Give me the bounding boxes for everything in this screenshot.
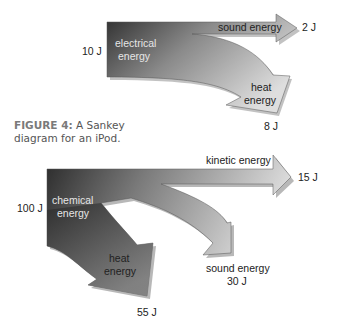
input-label: energy	[118, 50, 151, 62]
output-sound-value: 2 J	[302, 21, 316, 33]
sankey-diagrams: electrical energy 10 J sound energy 2 J …	[0, 0, 337, 325]
figure-caption: FIGURE 4: A Sankey diagram for an iPod.	[14, 119, 144, 145]
output-heat-label: heat	[109, 252, 130, 264]
output-heat-value: 8 J	[264, 120, 278, 132]
output-sound-value: 30 J	[227, 275, 247, 287]
input-value: 10 J	[82, 45, 102, 57]
output-heat-label: heat	[251, 81, 272, 93]
input-label: chemical	[52, 194, 93, 206]
output-sound-label: sound energy	[206, 262, 270, 274]
output-heat-label: energy	[104, 265, 137, 277]
output-sound-label: sound energy	[218, 21, 282, 33]
output-heat-label: energy	[244, 94, 277, 106]
sankey-car: chemical energy 100 J kinetic energy 15 …	[17, 154, 318, 318]
input-label: electrical	[115, 37, 156, 49]
figure-label: FIGURE 4:	[14, 119, 73, 131]
output-kinetic-value: 15 J	[298, 171, 318, 183]
output-heat-value: 55 J	[137, 306, 157, 318]
input-value: 100 J	[17, 202, 43, 214]
input-label: energy	[57, 207, 90, 219]
output-kinetic-label: kinetic energy	[206, 154, 272, 166]
sankey-ipod: electrical energy 10 J sound energy 2 J …	[82, 14, 316, 132]
